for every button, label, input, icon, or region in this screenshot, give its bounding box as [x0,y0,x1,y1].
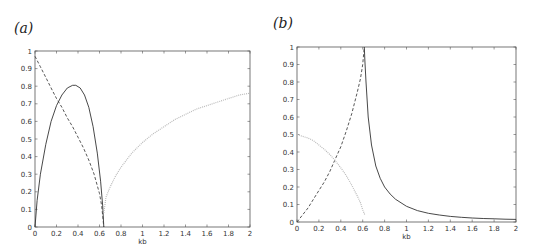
y-tick-label: 0.2 [283,184,294,192]
y-tick-label: 0.3 [283,166,294,174]
y-tick-label: 0.2 [21,188,32,196]
y-tick-label: 0 [28,224,32,232]
x-tick-label: 1.6 [201,230,213,238]
series-dotted [104,93,250,213]
x-tick-label: 1.6 [467,225,479,233]
x-tick-label: 1.2 [423,225,434,233]
x-tick-label: 0.6 [357,225,369,233]
x-tick-label: 1.8 [489,225,500,233]
series-solid [364,47,516,219]
x-axis-label: kb [138,238,147,246]
plot-frame [297,47,516,222]
x-tick-label: 0.4 [335,225,347,233]
x-tick-label: 1.8 [223,230,234,238]
y-tick-label: 0.4 [283,149,295,157]
x-tick-label: 1 [404,225,408,233]
x-tick-label: 1.2 [158,230,169,238]
y-tick-label: 1 [290,44,294,52]
x-tick-label: 0.6 [94,230,106,238]
y-tick-label: 0 [290,219,294,227]
series-dashed [35,56,104,227]
x-tick-label: 0 [295,225,299,233]
y-tick-label: 0.7 [283,96,294,104]
series-dashed [297,47,364,222]
x-tick-label: 0 [33,230,37,238]
y-tick-label: 0.6 [21,118,33,126]
y-tick-label: 0.5 [21,136,32,144]
x-tick-label: 0.8 [115,230,126,238]
y-tick-label: 1 [28,48,32,56]
y-tick-label: 0.7 [21,100,32,108]
series-solid [35,85,104,227]
panel-a: (a) 00.20.40.60.811.21.41.61.8200.10.20.… [0,0,267,252]
y-tick-label: 0.1 [283,201,294,209]
x-tick-label: 0.4 [72,230,84,238]
x-tick-label: 0.2 [313,225,324,233]
y-tick-label: 0.6 [283,114,295,122]
y-tick-label: 0.8 [21,83,32,91]
y-tick-label: 0.4 [21,153,33,161]
plot-frame [35,51,250,227]
y-tick-label: 0.3 [21,171,32,179]
y-tick-label: 0.5 [283,131,294,139]
x-tick-label: 1 [140,230,144,238]
x-tick-label: 1.4 [180,230,192,238]
y-tick-label: 0.9 [21,65,32,73]
y-tick-label: 0.9 [283,61,294,69]
y-tick-label: 0.8 [283,79,294,87]
x-tick-label: 2 [514,225,518,233]
x-axis-label: kb [402,233,411,241]
x-tick-label: 0.8 [379,225,390,233]
y-tick-label: 0.1 [21,206,32,214]
panel-b: (b) 00.20.40.60.811.21.41.61.8200.10.20.… [267,0,534,252]
x-tick-label: 2 [248,230,252,238]
x-tick-label: 0.2 [51,230,62,238]
chart-b: 00.20.40.60.811.21.41.61.8200.10.20.30.4… [267,0,534,252]
series-dotted [297,135,365,216]
x-tick-label: 1.4 [445,225,457,233]
chart-a: 00.20.40.60.811.21.41.61.8200.10.20.30.4… [0,0,267,252]
